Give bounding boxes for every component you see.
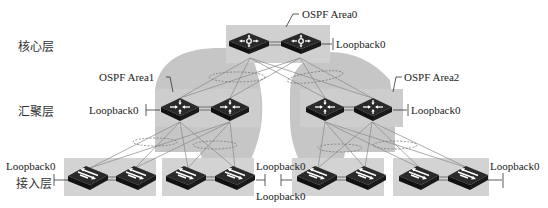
area1-label: OSPF Area1 <box>99 71 154 83</box>
loopback-access-4: Loopback0 <box>490 160 539 172</box>
loopback-access-1: Loopback0 <box>6 160 55 172</box>
layer-label-access: 接入层 <box>16 174 52 191</box>
network-diagram <box>0 0 548 208</box>
loopback-core: Loopback0 <box>336 38 385 50</box>
area0-label: OSPF Area0 <box>302 8 357 20</box>
loopback-agg-left: Loopback0 <box>89 104 138 116</box>
loopback-agg-right: Loopback0 <box>411 104 460 116</box>
loopback-access-2: Loopback0 <box>256 160 305 172</box>
area2-label: OSPF Area2 <box>404 71 459 83</box>
layer-label-core: 核心层 <box>18 37 54 54</box>
loopback-access-3: Loopback0 <box>256 190 305 202</box>
layer-label-aggregation: 汇聚层 <box>18 102 54 119</box>
